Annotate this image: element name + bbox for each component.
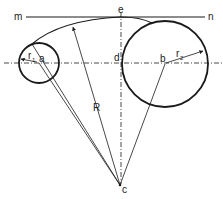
geometry-diagram: m n e d a b c R r 1 r 2 — [0, 0, 223, 199]
label-R: R — [93, 102, 100, 113]
connecting-arc-R — [32, 17, 152, 44]
label-m: m — [14, 11, 22, 22]
label-a: a — [39, 53, 45, 64]
line-c-to-arc-start — [32, 44, 120, 185]
line-c-to-a — [39, 63, 120, 185]
label-b: b — [160, 53, 166, 64]
label-n: n — [208, 11, 214, 22]
label-e: e — [118, 4, 124, 15]
point-c — [119, 184, 122, 187]
label-d: d — [114, 52, 120, 63]
radius-r2-arrow — [166, 51, 203, 63]
label-r2-sub: 2 — [180, 55, 184, 61]
label-c: c — [122, 184, 127, 195]
